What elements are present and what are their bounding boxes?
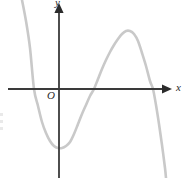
graph-figure: x y O xyxy=(0,0,186,178)
page-edge-artifact xyxy=(0,120,3,123)
x-axis-label: x xyxy=(176,82,181,93)
origin-label: O xyxy=(47,90,55,101)
page-edge-artifact xyxy=(0,113,3,116)
coordinate-plane-svg xyxy=(0,0,186,178)
x-axis-arrowhead xyxy=(162,84,172,93)
page-edge-artifact xyxy=(0,127,3,130)
y-axis-label: y xyxy=(55,0,60,8)
